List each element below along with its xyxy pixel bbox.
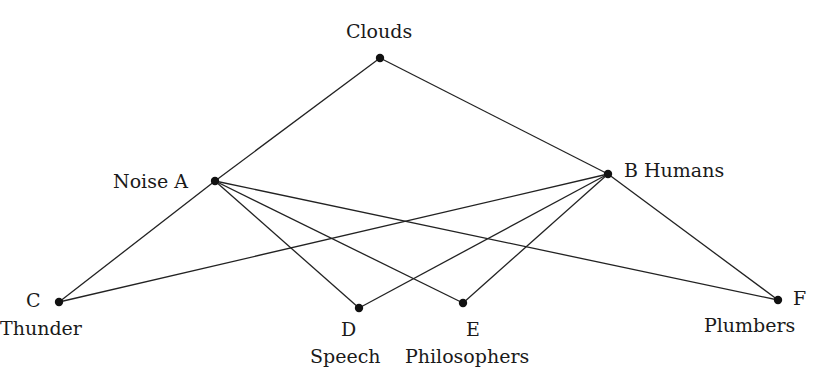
node-B bbox=[604, 170, 612, 178]
node-C bbox=[55, 298, 63, 306]
edge-B-F bbox=[608, 174, 778, 300]
label-noise-a: Noise A bbox=[113, 172, 188, 191]
edge-A-D bbox=[215, 181, 359, 308]
edge-B-D bbox=[359, 174, 608, 308]
node-A bbox=[211, 177, 219, 185]
label-f-letter: F bbox=[793, 289, 806, 308]
label-f-plumbers: Plumbers bbox=[704, 316, 795, 335]
label-c-letter: C bbox=[26, 291, 41, 310]
label-e-letter: E bbox=[466, 320, 480, 339]
edge-clouds-A bbox=[215, 58, 380, 181]
label-d-speech: Speech bbox=[310, 347, 381, 366]
node-E bbox=[459, 299, 467, 307]
node-D bbox=[355, 304, 363, 312]
label-d-letter: D bbox=[341, 320, 356, 339]
label-b-humans: B Humans bbox=[624, 161, 724, 180]
node-clouds bbox=[376, 54, 384, 62]
edge-A-E bbox=[215, 181, 463, 303]
edge-clouds-B bbox=[380, 58, 608, 174]
edge-A-F bbox=[215, 181, 778, 300]
label-clouds: Clouds bbox=[346, 22, 412, 41]
label-e-philosophers: Philosophers bbox=[405, 347, 529, 366]
label-c-thunder: Thunder bbox=[0, 319, 82, 338]
diagram-canvas: Clouds Noise A B Humans C Thunder D Spee… bbox=[0, 0, 837, 391]
node-F bbox=[774, 296, 782, 304]
